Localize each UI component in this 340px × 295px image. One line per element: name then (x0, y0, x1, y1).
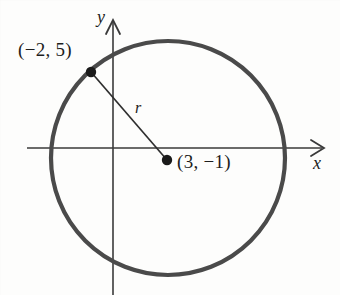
center-point-label: (3, −1) (177, 152, 231, 171)
radius-label: r (135, 100, 141, 116)
x-axis-label: x (313, 154, 321, 172)
y-axis-label: y (97, 8, 105, 26)
radius-segment (91, 72, 167, 160)
point-marker-center (162, 155, 172, 165)
point-on-circle-label: (−2, 5) (18, 40, 72, 59)
circle-geometry-figure: y x r (−2, 5) (3, −1) (0, 0, 340, 295)
point-marker-on-circle (86, 67, 96, 77)
